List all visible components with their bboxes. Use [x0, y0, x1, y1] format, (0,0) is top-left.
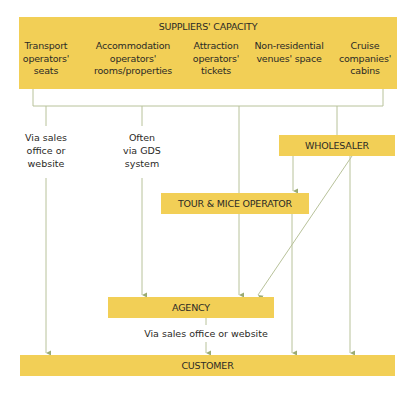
- label-line: seats: [19, 65, 73, 78]
- label-line: system: [114, 157, 170, 170]
- label-line: rooms/properties: [79, 65, 187, 78]
- annotation-gds: Often via GDS system: [114, 131, 170, 170]
- label-line: Accommodation: [79, 40, 187, 53]
- supplier-transport: Transport operators' seats: [19, 40, 73, 78]
- supplier-venues: Non-residential venues' space: [243, 40, 335, 65]
- tour-operator-box: TOUR & MICE OPERATOR: [161, 193, 309, 214]
- suppliers-capacity-box: SUPPLIERS' CAPACITY Transport operators'…: [19, 17, 397, 89]
- wholesaler-box: WHOLESALER: [279, 135, 395, 156]
- supplier-accommodation: Accommodation operators' rooms/propertie…: [79, 40, 187, 78]
- annotation-agency-to-customer: Via sales office or website: [130, 327, 282, 340]
- annotation-transport: Via sales office or website: [18, 131, 74, 170]
- label-line: Non-residential: [243, 40, 335, 53]
- label-line: via GDS: [114, 144, 170, 157]
- label-line: Transport: [19, 40, 73, 53]
- label-line: operators': [183, 53, 249, 66]
- suppliers-title: SUPPLIERS' CAPACITY: [19, 21, 397, 32]
- supplier-cruise: Cruise companies' cabins: [329, 40, 401, 78]
- label-line: tickets: [183, 65, 249, 78]
- label-line: cabins: [329, 65, 401, 78]
- label-line: venues' space: [243, 53, 335, 66]
- label-line: Attraction: [183, 40, 249, 53]
- label-line: companies': [329, 53, 401, 66]
- label-line: office or: [18, 144, 74, 157]
- supplier-attraction: Attraction operators' tickets: [183, 40, 249, 78]
- agency-box: AGENCY: [108, 297, 274, 318]
- label-line: Often: [114, 131, 170, 144]
- label-line: Cruise: [329, 40, 401, 53]
- label-line: operators': [19, 53, 73, 66]
- label-line: operators': [79, 53, 187, 66]
- label-line: website: [18, 157, 74, 170]
- customer-box: CUSTOMER: [20, 355, 395, 376]
- label-line: Via sales: [18, 131, 74, 144]
